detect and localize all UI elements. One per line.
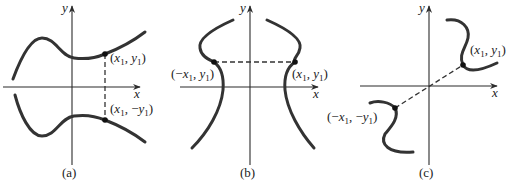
caption-b: (b) <box>240 165 255 180</box>
y-axis-label: y <box>238 0 246 15</box>
label-neg-x1-y1: (−x1, y1) <box>171 66 214 83</box>
panel-a: y x (x1, y1) (x1, −y1) (a) <box>3 0 153 180</box>
point-neg-x1-y1 <box>211 59 217 65</box>
caption-a: (a) <box>62 165 76 180</box>
x-axis-label: x <box>312 86 319 101</box>
label-x1-y1: (x1, y1) <box>110 50 146 67</box>
point-x1-y1 <box>102 51 108 57</box>
left-curve <box>192 20 233 148</box>
panel-c: y x (x1, y1) (−x1, −y1) (c) <box>327 0 506 180</box>
label-x1-y1: (x1, y1) <box>292 66 328 83</box>
y-axis-label: y <box>417 0 425 15</box>
label-x1-y1: (x1, y1) <box>470 42 506 59</box>
x-axis-label: x <box>491 85 498 100</box>
label-neg-x1-neg-y1: (−x1, −y1) <box>327 109 377 126</box>
point-neg-x1-neg-y1 <box>392 105 398 111</box>
x-axis-label: x <box>133 86 140 101</box>
caption-c: (c) <box>419 165 433 180</box>
panel-b: y x (−x1, y1) (x1, y1) (b) <box>171 0 328 180</box>
point-x1-y1 <box>292 59 298 65</box>
right-curve <box>267 20 314 148</box>
point-x1-neg-y1 <box>102 117 108 123</box>
symmetry-figure: y x (x1, y1) (x1, −y1) (a) y x (−x1, y1)… <box>0 0 515 183</box>
point-x1-y1 <box>460 62 466 68</box>
y-axis-label: y <box>60 0 68 15</box>
label-x1-neg-y1: (x1, −y1) <box>110 101 153 118</box>
